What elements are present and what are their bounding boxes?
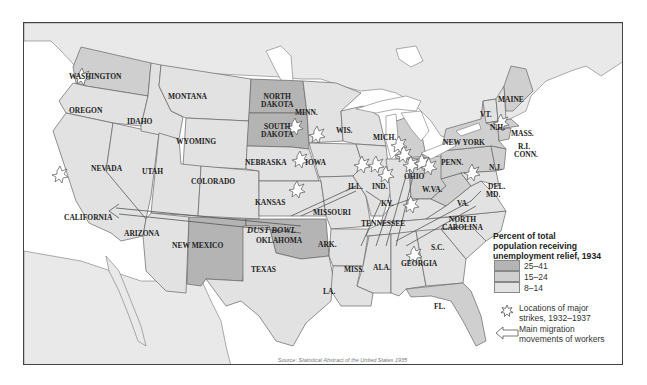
label-missouri: MISSOURI <box>313 209 351 217</box>
label-nj: N.J. <box>489 164 502 172</box>
state-colorado <box>198 166 259 219</box>
label-utah: UTAH <box>142 168 163 176</box>
label-montana: MONTANA <box>168 93 207 101</box>
legend-migration-text: Main migration movements of workers <box>519 324 605 344</box>
label-dust-bowl: DUST BOWL <box>247 226 296 234</box>
swatch-medium <box>494 271 520 282</box>
label-new-mexico: NEW MEXICO <box>172 242 223 250</box>
label-north-carolina-2: CAROLINA <box>442 223 483 232</box>
legend-strikes-line-2: strikes, 1932–1937 <box>519 313 591 323</box>
label-wyoming: WYOMING <box>176 138 216 146</box>
legend-title: Percent of total population receiving un… <box>493 231 633 261</box>
label-fl: FL. <box>434 303 445 311</box>
legend-title-line-2: population receiving <box>493 241 633 251</box>
strike-burst-icon <box>500 304 514 318</box>
label-ind: IND. <box>372 183 388 191</box>
label-ark: ARK. <box>318 241 337 249</box>
swatch-high <box>494 260 520 271</box>
label-oregon: OREGON <box>69 107 102 115</box>
state-new-mexico <box>187 217 246 286</box>
label-tennessee: TENNESSEE <box>361 220 405 228</box>
label-south-dakota-2: DAKOTA <box>261 130 293 139</box>
label-va: VA. <box>457 200 469 208</box>
label-penn: PENN. <box>441 159 463 167</box>
source-citation: Source: Statistical Abstract of the Unit… <box>278 357 407 363</box>
legend-migration-line-2: movements of workers <box>519 334 605 344</box>
label-vt: VT. <box>480 111 492 119</box>
label-wis: WIS. <box>336 127 352 135</box>
label-north-dakota: NORTHDAKOTA <box>261 93 293 109</box>
state-florida <box>406 283 486 346</box>
label-md: MD. <box>486 191 500 199</box>
label-wva: W.VA. <box>422 186 442 194</box>
swatch-low <box>494 282 520 293</box>
label-conn: CONN. <box>514 151 538 159</box>
lake-superior <box>356 96 421 113</box>
legend-strikes-line-1: Locations of major <box>519 303 591 313</box>
legend-label-high: 25–41 <box>524 261 548 271</box>
label-ky: KY. <box>381 200 393 208</box>
label-colorado: COLORADO <box>191 178 235 186</box>
legend-migration-line-1: Main migration <box>519 324 605 334</box>
label-new-york: NEW YORK <box>443 139 485 147</box>
migration-arrow-icon <box>495 326 519 340</box>
source-prefix: Source: <box>278 357 297 363</box>
label-mass: MASS. <box>511 130 534 138</box>
legend-item-medium: 15–24 <box>494 271 548 282</box>
label-nh: N.H. <box>490 124 505 132</box>
label-oklahoma: OKLAHOMA <box>256 237 302 245</box>
legend-label-medium: 15–24 <box>524 272 548 282</box>
label-mich: MICH. <box>373 134 396 142</box>
label-georgia: GEORGIA <box>401 260 437 268</box>
legend-item-high: 25–41 <box>494 260 548 271</box>
label-nevada: NEVADA <box>91 165 122 173</box>
label-la: LA. <box>323 288 335 296</box>
label-miss: MISS. <box>344 266 364 274</box>
legend-strikes-text: Locations of major strikes, 1932–1937 <box>519 303 591 323</box>
label-ala: ALA. <box>373 264 391 272</box>
label-iowa: IOWA <box>305 159 326 167</box>
legend-item-low: 8–14 <box>494 282 543 293</box>
label-minn: MINN. <box>295 109 318 117</box>
label-south-dakota: SOUTHDAKOTA <box>261 123 293 139</box>
label-north-dakota-2: DAKOTA <box>261 100 293 109</box>
legend-title-line-1: Percent of total <box>493 231 633 241</box>
label-ohio: OHIO <box>404 173 424 181</box>
label-maine: MAINE <box>498 96 524 104</box>
label-texas: TEXAS <box>251 266 276 274</box>
legend-label-low: 8–14 <box>524 283 543 293</box>
label-idaho: IDAHO <box>127 118 152 126</box>
label-kansas: KANSAS <box>255 199 285 207</box>
label-nebraska: NEBRASKA <box>245 159 287 167</box>
label-sc: S.C. <box>431 244 444 252</box>
label-california: CALIFORNIA <box>64 214 112 222</box>
label-washington: WASHINGTON <box>69 73 121 81</box>
label-north-carolina: NORTHCAROLINA <box>442 216 483 232</box>
label-ill: ILL. <box>348 183 363 191</box>
label-arizona: ARIZONA <box>124 230 159 238</box>
source-title: Statistical Abstract of the United State… <box>299 357 408 363</box>
